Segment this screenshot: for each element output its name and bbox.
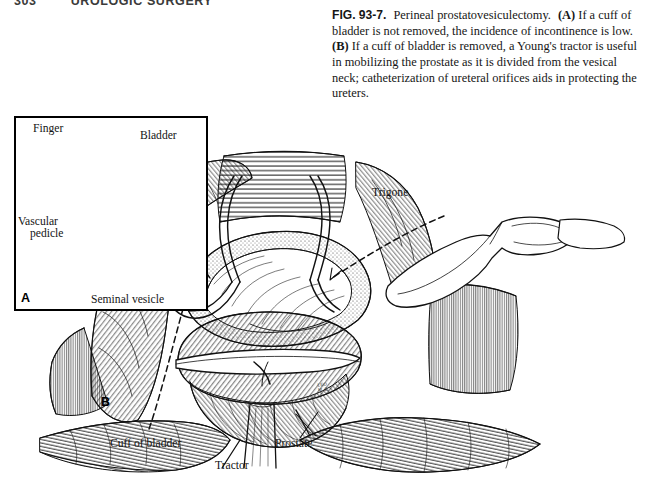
label-vascular-pedicle-line2: pedicle bbox=[30, 227, 63, 240]
label-cuff-of-bladder: Cuff of bladder bbox=[110, 437, 181, 450]
figure-caption: FIG. 93-7.Perineal prostatovesiculectomy… bbox=[332, 8, 640, 102]
inset-panel-a-frame bbox=[14, 116, 208, 311]
page-folio: 303 bbox=[14, 0, 37, 6]
caption-title: Perineal prostatovesiculectomy. bbox=[393, 8, 550, 22]
label-seminal-vesicle: Seminal vesicle bbox=[91, 293, 164, 306]
caption-part-b-marker: (B) bbox=[332, 39, 349, 53]
figure-illustration: Finger Bladder Vascular pedicle Seminal … bbox=[0, 96, 646, 479]
label-trigone: Trigone bbox=[372, 186, 408, 199]
label-prostate: Prostate bbox=[275, 437, 312, 450]
caption-part-b-text: If a cuff of bladder is removed, a Young… bbox=[332, 39, 637, 100]
label-finger: Finger bbox=[33, 122, 63, 135]
caption-part-a-marker: (A) bbox=[558, 8, 575, 22]
label-tractor: Tractor bbox=[215, 459, 249, 472]
running-head-title: UROLOGIC SURGERY bbox=[71, 0, 213, 6]
artist-signature: LEO M. E. bbox=[318, 382, 330, 393]
panel-letter-a: A bbox=[21, 291, 30, 305]
panel-letter-b: B bbox=[101, 395, 110, 409]
caption-figure-number: FIG. 93-7. bbox=[332, 8, 386, 22]
label-bladder: Bladder bbox=[140, 129, 177, 142]
running-head: 303UROLOGIC SURGERY bbox=[14, 0, 334, 6]
